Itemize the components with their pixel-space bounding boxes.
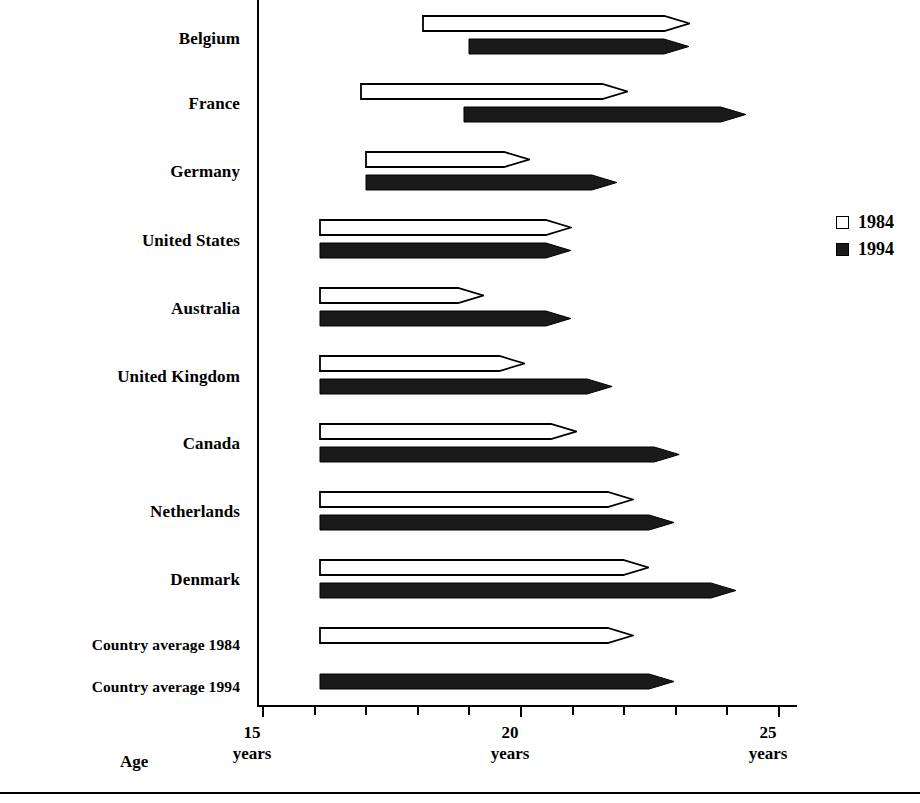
bar-denmark-1984	[319, 559, 649, 576]
x-tick-label-25: 25 years	[723, 722, 813, 765]
x-axis-tick-17	[365, 707, 367, 715]
category-label-canada: Canada	[12, 435, 252, 452]
category-label-australia: Australia	[12, 300, 252, 317]
bar-belgium-1994	[468, 38, 690, 55]
x-axis-tick-20	[520, 707, 522, 717]
x-axis-title: Age	[120, 752, 148, 772]
bar-australia-1994	[319, 310, 572, 327]
bar-united-states-1994	[319, 242, 572, 259]
legend-item-1994: 1994	[836, 237, 920, 261]
bar-united-kingdom-1994	[319, 378, 613, 395]
bar-germany-1984	[365, 151, 530, 168]
bar-canada-1994	[319, 446, 680, 463]
x-axis	[257, 705, 857, 717]
x-axis-tick-24	[726, 707, 728, 715]
x-tick-label-15: 15 years	[207, 722, 297, 765]
bar-netherlands-1984	[319, 491, 634, 508]
x-axis-line	[257, 705, 797, 707]
x-axis-tick-19	[468, 707, 470, 715]
legend-label-1994: 1994	[858, 240, 894, 258]
y-axis-label-group: Belgium France Germany United States Aus…	[0, 0, 252, 700]
bar-denmark-1994	[319, 582, 737, 599]
legend-swatch-outline-icon	[836, 216, 849, 229]
bar-netherlands-1994	[319, 514, 675, 531]
x-axis-tick-15	[262, 707, 264, 717]
y-axis-line	[257, 0, 259, 706]
x-axis-tick-23	[675, 707, 677, 715]
x-tick-unit-20: years	[465, 743, 555, 764]
legend-item-1984: 1984	[836, 210, 920, 234]
x-axis-tick-16	[314, 707, 316, 715]
category-label-netherlands: Netherlands	[12, 503, 252, 520]
category-label-france: France	[12, 95, 252, 112]
category-label-denmark: Denmark	[12, 571, 252, 588]
bar-united-kingdom-1984	[319, 355, 525, 372]
plot-area	[257, 0, 920, 706]
category-label-united-kingdom: United Kingdom	[12, 368, 252, 385]
bar-france-1994	[463, 106, 747, 123]
bar-country-average-1994	[319, 673, 675, 690]
bar-belgium-1984	[422, 15, 690, 32]
bar-australia-1984	[319, 287, 484, 304]
category-label-united-states: United States	[12, 232, 252, 249]
category-label-country-average-1994: Country average 1994	[12, 679, 252, 695]
bar-germany-1994	[365, 174, 618, 191]
category-label-country-average-1984: Country average 1984	[12, 637, 252, 653]
legend-label-1984: 1984	[858, 213, 894, 231]
x-tick-unit-15: years	[207, 743, 297, 764]
x-axis-tick-25	[778, 707, 780, 717]
x-axis-tick-22	[623, 707, 625, 715]
x-tick-value-15: 15	[207, 722, 297, 743]
bar-country-average-1984	[319, 627, 634, 644]
x-tick-value-20: 20	[465, 722, 555, 743]
legend: 1984 1994	[836, 210, 920, 264]
category-label-germany: Germany	[12, 163, 252, 180]
x-tick-value-25: 25	[723, 722, 813, 743]
x-tick-label-20: 20 years	[465, 722, 555, 765]
legend-swatch-filled-icon	[836, 243, 849, 256]
x-axis-tick-18	[417, 707, 419, 715]
bar-united-states-1984	[319, 219, 572, 236]
bar-france-1984	[360, 83, 628, 100]
x-axis-tick-21	[572, 707, 574, 715]
x-tick-unit-25: years	[723, 743, 813, 764]
chart-container: Belgium France Germany United States Aus…	[0, 0, 920, 803]
category-label-belgium: Belgium	[12, 30, 252, 47]
bottom-rule-divider	[0, 792, 920, 794]
bar-canada-1984	[319, 423, 577, 440]
